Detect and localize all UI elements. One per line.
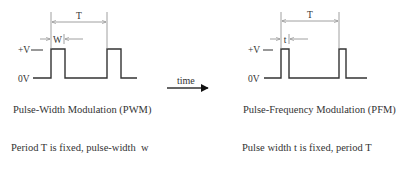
pwm-title: Pulse-Width Modulation (PWM)	[13, 104, 151, 116]
high-voltage-label: +V	[248, 45, 260, 55]
zero-voltage-label: 0V	[248, 74, 260, 84]
width-label: t	[284, 35, 287, 45]
zero-voltage-label: 0V	[18, 74, 30, 84]
width-label: W	[53, 35, 62, 45]
pulse-waveform	[33, 49, 137, 78]
pfm-description: Pulse width t is fixed, period T changes…	[242, 124, 379, 170]
time-label: time	[177, 75, 195, 86]
pfm-description-line: Pulse width t is fixed, period T	[242, 143, 379, 153]
high-voltage-label: +V	[18, 45, 30, 55]
pwm-description: Period T is fixed, pulse-width w changes…	[11, 124, 149, 170]
time-arrow: time	[167, 75, 208, 88]
pwm-waveform-diagram: +V0VTW	[18, 11, 137, 84]
period-label: T	[307, 10, 313, 20]
pwm-description-line: Period T is fixed, pulse-width w	[11, 143, 149, 153]
pfm-waveform-diagram: +V0VTt	[248, 10, 367, 84]
period-label: T	[76, 11, 82, 21]
pulse-waveform	[264, 49, 367, 78]
pfm-title: Pulse-Frequency Modulation (PFM)	[243, 104, 396, 116]
